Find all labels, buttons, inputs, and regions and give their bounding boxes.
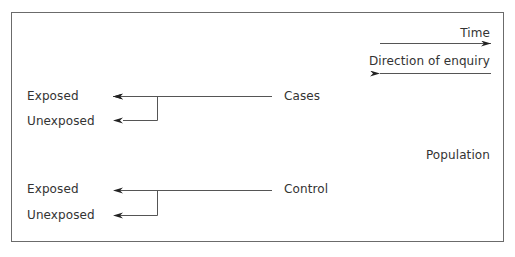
control-unexposed-connector xyxy=(120,191,158,216)
cases-exposed-label: Exposed xyxy=(27,89,79,103)
control-exposed-label: Exposed xyxy=(27,182,79,196)
cases-unexposed-label: Unexposed xyxy=(27,114,95,128)
population-label: Population xyxy=(426,148,490,162)
time-label: Time xyxy=(460,26,490,40)
control-unexposed-label: Unexposed xyxy=(27,208,95,222)
control-label: Control xyxy=(284,182,328,196)
cases-unexposed-connector xyxy=(123,97,158,121)
cases-unexposed-arrowhead-icon xyxy=(113,118,123,124)
cases-label: Cases xyxy=(284,89,320,103)
enquiry-label: Direction of enquiry xyxy=(369,54,490,68)
